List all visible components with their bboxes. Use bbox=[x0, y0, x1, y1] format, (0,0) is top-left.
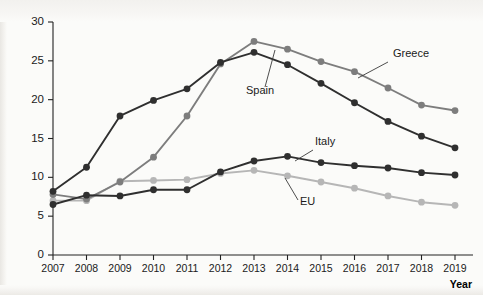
data-point bbox=[318, 80, 325, 87]
chart-figure: 051015202530 200720082009201020112012201… bbox=[0, 0, 483, 295]
y-tick-label: 15 bbox=[31, 132, 44, 144]
data-point bbox=[385, 85, 392, 92]
data-point bbox=[184, 113, 191, 120]
x-tick-label: 2008 bbox=[75, 262, 99, 274]
annotation-label-eu: EU bbox=[300, 195, 315, 207]
data-point bbox=[83, 192, 90, 199]
y-tick-label: 10 bbox=[31, 170, 44, 182]
data-point bbox=[251, 167, 258, 174]
x-axis: 2007200820092010201120122013201420152016… bbox=[41, 255, 473, 274]
data-point bbox=[184, 186, 191, 193]
data-point bbox=[284, 46, 291, 53]
data-point bbox=[318, 179, 325, 186]
annotation-leader-line bbox=[265, 50, 275, 87]
x-tick-label: 2016 bbox=[343, 262, 367, 274]
data-point bbox=[217, 169, 224, 176]
data-point bbox=[251, 49, 258, 56]
data-point bbox=[150, 177, 157, 184]
y-tick-label: 25 bbox=[31, 54, 44, 66]
data-point bbox=[251, 38, 258, 45]
x-tick-label: 2015 bbox=[309, 262, 333, 274]
data-point bbox=[284, 61, 291, 68]
x-tick-label: 2018 bbox=[410, 262, 434, 274]
annotation-leader-line bbox=[358, 62, 388, 78]
y-tick-label: 20 bbox=[31, 93, 44, 105]
data-point bbox=[418, 199, 425, 206]
data-point bbox=[385, 193, 392, 200]
data-point bbox=[418, 102, 425, 109]
series-line-greece bbox=[53, 41, 455, 199]
data-point bbox=[385, 118, 392, 125]
data-point bbox=[117, 113, 124, 120]
data-point bbox=[150, 97, 157, 104]
data-point bbox=[351, 99, 358, 106]
x-tick-label: 2012 bbox=[209, 262, 233, 274]
y-tick-label: 0 bbox=[38, 248, 44, 260]
data-point bbox=[50, 188, 57, 195]
data-point bbox=[117, 193, 124, 200]
data-point bbox=[184, 85, 191, 92]
series-eu bbox=[50, 167, 459, 209]
x-tick-label: 2009 bbox=[108, 262, 132, 274]
data-point bbox=[150, 154, 157, 161]
x-tick-label: 2014 bbox=[276, 262, 300, 274]
data-point bbox=[452, 172, 459, 179]
data-point bbox=[150, 186, 157, 193]
series-greece bbox=[50, 38, 459, 202]
annotation-label-italy: Italy bbox=[315, 135, 336, 147]
x-tick-label: 2007 bbox=[41, 262, 65, 274]
data-point bbox=[418, 169, 425, 176]
data-point bbox=[284, 153, 291, 160]
data-point bbox=[351, 162, 358, 169]
data-point bbox=[452, 144, 459, 151]
series-layer bbox=[50, 38, 459, 209]
data-point bbox=[217, 59, 224, 66]
data-point bbox=[452, 107, 459, 114]
data-point bbox=[318, 159, 325, 166]
data-point bbox=[83, 164, 90, 171]
data-point bbox=[117, 179, 124, 186]
y-axis: 051015202530 bbox=[31, 15, 53, 260]
x-tick-label: 2019 bbox=[443, 262, 467, 274]
series-italy bbox=[50, 153, 459, 208]
y-tick-label: 5 bbox=[38, 209, 44, 221]
annotation-label-spain: Spain bbox=[246, 84, 274, 96]
data-point bbox=[385, 165, 392, 172]
data-point bbox=[184, 176, 191, 183]
x-tick-label: 2010 bbox=[142, 262, 166, 274]
x-tick-label: 2011 bbox=[176, 262, 199, 274]
data-point bbox=[452, 202, 459, 209]
data-point bbox=[351, 68, 358, 75]
x-axis-title: Year bbox=[450, 278, 472, 290]
series-line-eu bbox=[53, 170, 455, 205]
annotation-leader-line bbox=[285, 178, 298, 200]
y-tick-label: 30 bbox=[31, 15, 44, 27]
data-point bbox=[351, 185, 358, 192]
data-point bbox=[50, 201, 57, 208]
x-tick-label: 2017 bbox=[376, 262, 400, 274]
data-point bbox=[318, 58, 325, 65]
data-point bbox=[251, 158, 258, 165]
x-tick-label: 2013 bbox=[242, 262, 266, 274]
data-point bbox=[418, 133, 425, 140]
line-chart-plot: 051015202530 200720082009201020112012201… bbox=[0, 0, 483, 295]
annotation-label-greece: Greece bbox=[393, 47, 429, 59]
